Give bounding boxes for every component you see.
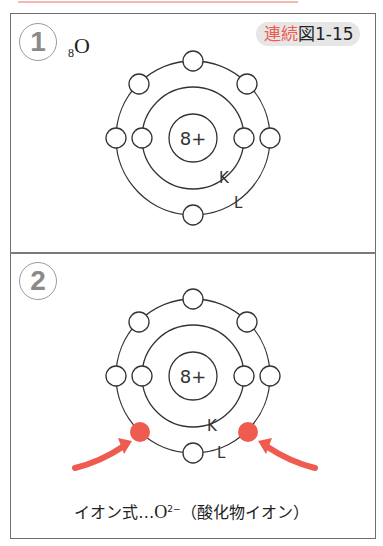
ion-name: （酸化物イオン） (181, 503, 309, 522)
atom-diagrams: 8+ K L 8+ K L (0, 0, 383, 546)
arrow-left-icon (75, 446, 124, 468)
added-electron-left (130, 422, 150, 442)
shell-label-L-1: L (234, 194, 243, 212)
ion-formula: イオン式…O2−（酸化物イオン） (0, 499, 383, 523)
ion-symbol: O (154, 502, 167, 522)
shell-label-K-2: K (207, 417, 218, 435)
arrow-right-icon (266, 446, 315, 468)
ion-charge: 2− (167, 504, 180, 514)
shell-label-K-1: K (219, 169, 230, 187)
shell-label-L-2: L (217, 444, 226, 462)
added-electron-right (238, 422, 258, 442)
ion-formula-label: イオン式… (74, 503, 154, 522)
nucleus-charge-1: 8+ (180, 128, 207, 149)
nucleus-charge-2: 8+ (180, 366, 207, 387)
